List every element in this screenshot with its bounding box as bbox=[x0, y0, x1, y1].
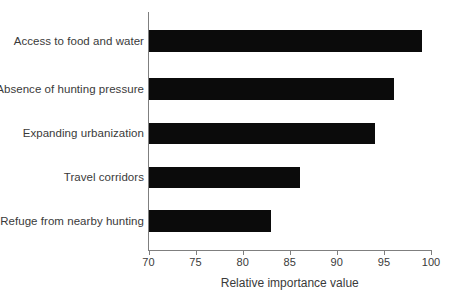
bar-chart: Access to food and water Absence of hunt… bbox=[0, 0, 457, 300]
x-axis-tick bbox=[243, 250, 244, 255]
x-axis-tick-label: 85 bbox=[284, 256, 296, 268]
x-axis-tick bbox=[384, 250, 385, 255]
category-label: Absence of hunting pressure bbox=[0, 83, 144, 95]
x-axis-title: Relative importance value bbox=[221, 276, 359, 290]
y-axis-line bbox=[148, 12, 149, 251]
category-label: Access to food and water bbox=[14, 35, 144, 47]
bar bbox=[149, 30, 422, 52]
x-axis-tick bbox=[431, 250, 432, 255]
x-axis-tick-label: 90 bbox=[331, 256, 343, 268]
x-axis-tick bbox=[196, 250, 197, 255]
category-label: Travel corridors bbox=[64, 171, 144, 183]
x-axis-tick bbox=[290, 250, 291, 255]
category-label: Expanding urbanization bbox=[23, 127, 144, 139]
x-axis-tick bbox=[149, 250, 150, 255]
bar bbox=[149, 78, 394, 100]
x-axis-tick-label: 70 bbox=[142, 256, 154, 268]
bar bbox=[149, 210, 271, 232]
category-label: Refuge from nearby hunting bbox=[0, 215, 144, 227]
x-axis-tick-label: 100 bbox=[422, 256, 441, 268]
bar bbox=[149, 167, 300, 188]
x-axis-tick-label: 95 bbox=[378, 256, 390, 268]
bar bbox=[149, 123, 375, 144]
x-axis-tick-label: 80 bbox=[236, 256, 248, 268]
x-axis-tick-label: 75 bbox=[189, 256, 201, 268]
x-axis-tick bbox=[337, 250, 338, 255]
